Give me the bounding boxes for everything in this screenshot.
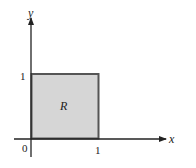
- origin-label: 0: [22, 142, 28, 154]
- region-diagram: y x 0 1 1 R: [0, 0, 196, 168]
- region-label: R: [59, 99, 68, 113]
- y-tick-label: 1: [20, 70, 26, 82]
- x-tick-label: 1: [95, 144, 101, 156]
- x-axis-label: x: [168, 132, 175, 146]
- y-axis-label: y: [27, 6, 34, 20]
